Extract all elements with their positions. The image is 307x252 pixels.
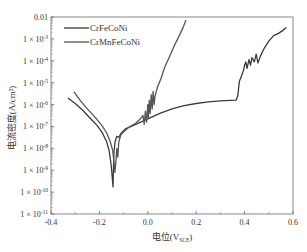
x-tick-label: 0.4 bbox=[240, 218, 250, 227]
y-tick-label: 1 × 10-7 bbox=[23, 121, 48, 131]
series-line-crfeconi bbox=[68, 28, 286, 187]
legend-label: CrMnFeCoNi bbox=[90, 37, 141, 47]
x-tick-label: -0.2 bbox=[93, 218, 106, 227]
y-axis-title: 电流密度(A/cm²) bbox=[6, 86, 17, 151]
y-tick-label: 1 × 10-3 bbox=[23, 34, 48, 44]
y-tick-label: 1 × 10-9 bbox=[23, 165, 48, 175]
x-axis-title: 电位(VSCE) bbox=[152, 231, 193, 243]
y-tick-label: 0.01 bbox=[34, 13, 48, 22]
y-tick-label: 1 × 10-10 bbox=[20, 187, 48, 197]
y-tick-label: 1 × 10-6 bbox=[23, 100, 48, 110]
x-tick-label: 0.6 bbox=[288, 218, 298, 227]
legend: CrFeCoNiCrMnFeCoNi bbox=[64, 23, 141, 47]
y-tick-label: 1 × 10-5 bbox=[23, 78, 48, 88]
x-tick-label: 0.0 bbox=[143, 218, 153, 227]
x-tick-label: 0.2 bbox=[191, 218, 201, 227]
legend-label: CrFeCoNi bbox=[90, 23, 128, 33]
y-axis-ticks: 0.011 × 10-31 × 10-41 × 10-51 × 10-61 × … bbox=[20, 13, 54, 219]
x-axis-ticks: -0.4-0.20.00.20.40.6 bbox=[45, 211, 298, 227]
x-tick-label: -0.4 bbox=[45, 218, 58, 227]
polarization-chart: -0.4-0.20.00.20.40.6 0.011 × 10-31 × 10-… bbox=[0, 0, 307, 252]
y-tick-label: 1 × 10-8 bbox=[23, 143, 48, 153]
y-tick-label: 1 × 10-4 bbox=[23, 56, 48, 66]
